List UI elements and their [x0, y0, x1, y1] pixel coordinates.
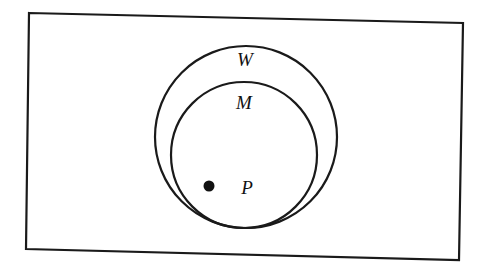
euler-diagram: W M P: [0, 0, 487, 270]
set-w-circle: [155, 46, 337, 228]
element-p-dot: [204, 181, 215, 192]
set-w-label: W: [237, 49, 255, 70]
element-p-label: P: [240, 177, 253, 198]
set-m-label: M: [235, 92, 253, 113]
